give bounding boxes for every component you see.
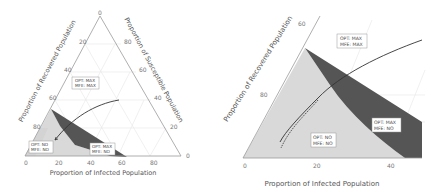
left-bottom-tick-80: 80 [150,159,158,166]
left-bottom-tick-40: 40 [87,159,95,166]
svg-text:MFE: NO: MFE: NO [313,141,333,146]
right-bottom-axis-label: Proportion of Infected Population [265,180,380,188]
left-apex-tick: 0 [98,9,102,16]
right-label-box-opt-max-mfe-no: OPT: MAX MFE: NO [372,118,401,132]
svg-text:OPT: MAX: OPT: MAX [340,36,362,41]
left-left-tick-80: 80 [33,123,41,130]
right-zoomed-plot: OPT: MAX MFE: MAX OPT: NO MFE: NO OPT: M… [222,15,425,188]
left-bottom-tick-0: 0 [24,159,28,166]
left-left-tick-40: 40 [64,66,72,73]
left-left-tick-60: 60 [49,94,57,101]
left-label-box-opt-no-mfe-no: OPT: NO MFE: NO [29,141,53,153]
figure-canvas: OPT: MAX MFE: MAX OPT: NO MFE: NO OPT: M… [0,0,441,193]
left-label-box-opt-max-mfe-no: OPT: MAX MFE: NO [90,143,115,155]
right-left-tick-80: 80 [260,91,268,98]
left-right-corner-tick: 0 [186,152,190,159]
left-left-tick-20: 20 [79,38,87,45]
svg-text:OPT: NO: OPT: NO [313,135,332,140]
left-bottom-tick-60: 60 [118,159,126,166]
left-ternary-plot: OPT: MAX MFE: MAX OPT: NO MFE: NO OPT: M… [17,9,190,177]
svg-text:MFE: NO: MFE: NO [31,147,50,152]
left-right-tick-80: 80 [124,38,132,45]
left-right-tick-20: 20 [170,123,178,130]
svg-text:MFE: NO: MFE: NO [92,149,111,154]
left-right-tick-40: 40 [154,94,162,101]
right-bottom-tick-40: 40 [387,162,395,169]
svg-text:MFE: NO: MFE: NO [374,126,394,131]
right-bottom-tick-0: 0 [243,162,247,169]
left-label-box-opt-max-mfe-max: OPT: MAX MFE: MAX [72,77,99,89]
svg-text:MFE: MAX: MFE: MAX [75,83,96,88]
right-bottom-tick-20: 20 [313,162,321,169]
left-bottom-tick-20: 20 [55,159,63,166]
right-left-tick-60: 60 [298,20,306,27]
left-bottom-axis-label: Proportion of Infected Population [50,169,157,177]
svg-text:MFE: MAX: MFE: MAX [340,42,363,47]
right-label-box-opt-no-mfe-no: OPT: NO MFE: NO [311,133,336,147]
left-right-axis-label: Proportion of Susceptible Population [123,16,185,124]
left-right-tick-60: 60 [139,66,147,73]
right-label-box-opt-max-mfe-max: OPT: MAX MFE: MAX [337,34,367,48]
svg-text:OPT: MAX: OPT: MAX [374,120,396,125]
